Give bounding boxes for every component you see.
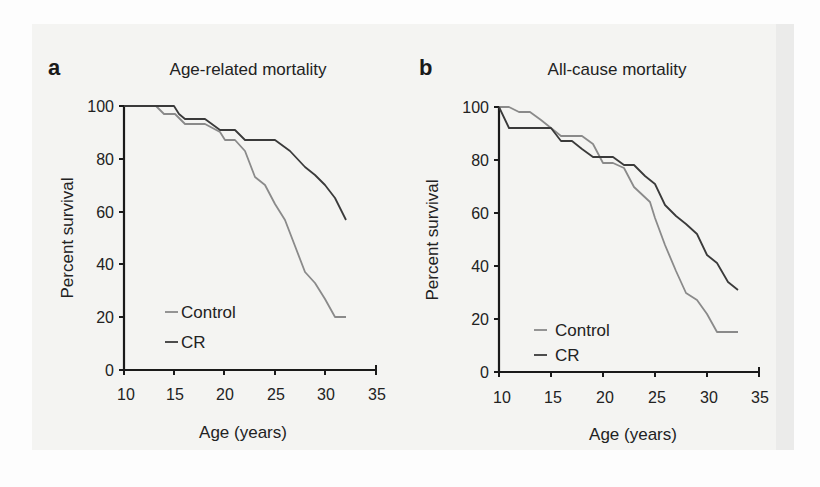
y-axis-label: Percent survival (58, 178, 77, 299)
panel-letter: b (419, 55, 432, 80)
svg-text:60: 60 (471, 205, 489, 222)
y-tick-labels: 0 20 40 60 80 100 (87, 98, 114, 379)
svg-text:30: 30 (317, 386, 335, 403)
svg-text:80: 80 (96, 151, 114, 168)
svg-text:0: 0 (105, 362, 114, 379)
panel-b: b All-cause mortality 0 20 40 60 80 100 (419, 55, 769, 444)
svg-text:20: 20 (216, 386, 234, 403)
series-cr (124, 106, 346, 220)
x-axis-label: Age (years) (199, 423, 287, 442)
svg-text:10: 10 (493, 389, 511, 406)
y-tick-labels: 0 20 40 60 80 100 (462, 99, 489, 381)
legend-label-cr: CR (181, 333, 206, 352)
svg-text:20: 20 (596, 389, 614, 406)
legend: Control CR (534, 321, 610, 365)
series-cr (499, 107, 738, 290)
svg-text:20: 20 (96, 309, 114, 326)
svg-text:40: 40 (471, 258, 489, 275)
x-tick-labels: 10 15 20 25 30 35 (117, 386, 386, 403)
svg-text:40: 40 (96, 256, 114, 273)
legend: Control CR (165, 303, 236, 352)
svg-text:30: 30 (700, 389, 718, 406)
svg-text:100: 100 (87, 98, 114, 115)
series-control (499, 107, 738, 332)
svg-text:60: 60 (96, 204, 114, 221)
svg-text:25: 25 (267, 386, 285, 403)
panel-a: a Age-related mortality 0 20 40 60 80 10… (48, 55, 386, 442)
legend-label-cr: CR (555, 346, 580, 365)
svg-text:10: 10 (117, 386, 135, 403)
figure: a Age-related mortality 0 20 40 60 80 10… (0, 0, 820, 487)
panel-letter: a (48, 55, 61, 80)
svg-text:15: 15 (166, 386, 184, 403)
svg-text:80: 80 (471, 152, 489, 169)
chart-title: All-cause mortality (548, 60, 687, 79)
y-axis-label: Percent survival (423, 180, 442, 301)
svg-text:20: 20 (471, 311, 489, 328)
chart-title: Age-related mortality (170, 60, 327, 79)
x-tick-labels: 10 15 20 25 30 35 (493, 389, 769, 406)
x-axis-label: Age (years) (589, 425, 677, 444)
svg-text:35: 35 (368, 386, 386, 403)
axes (124, 106, 376, 370)
svg-text:0: 0 (480, 364, 489, 381)
svg-text:15: 15 (544, 389, 562, 406)
series-control (124, 106, 346, 317)
svg-text:100: 100 (462, 99, 489, 116)
legend-label-control: Control (181, 303, 236, 322)
svg-text:25: 25 (648, 389, 666, 406)
legend-label-control: Control (555, 321, 610, 340)
svg-text:35: 35 (751, 389, 769, 406)
